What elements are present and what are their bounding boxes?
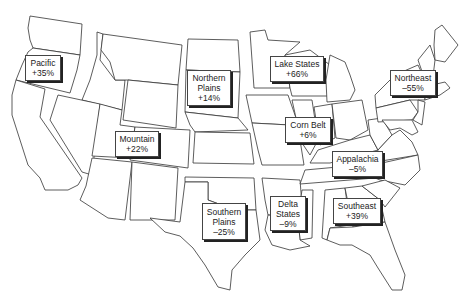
region-value: –25% xyxy=(213,227,235,237)
region-name: Mountain xyxy=(120,134,155,144)
region-value: +66% xyxy=(286,69,308,79)
region-value: +6% xyxy=(299,130,316,140)
region-name: Plains xyxy=(212,217,235,227)
region-label-northern-plains: NorthernPlains+14% xyxy=(187,70,231,106)
region-name: Lake States xyxy=(275,59,320,69)
region-name: States xyxy=(276,209,300,219)
state-new-mexico xyxy=(130,162,178,220)
us-regions-map xyxy=(0,0,475,301)
region-label-appalachia: Appalachia–5% xyxy=(332,151,383,177)
region-name: Northern xyxy=(192,73,225,83)
region-value: +22% xyxy=(126,144,148,154)
region-name: Corn Belt xyxy=(290,120,325,130)
region-name: Delta xyxy=(278,199,298,209)
region-name: Southern xyxy=(207,207,242,217)
state-maine xyxy=(434,25,458,62)
region-value: –9% xyxy=(279,219,296,229)
region-label-corn-belt: Corn Belt+6% xyxy=(285,117,331,143)
region-label-southeast: Southeast+39% xyxy=(333,198,381,224)
region-value: +35% xyxy=(32,68,54,78)
region-value: –55% xyxy=(402,83,424,93)
region-label-northeast: Northeast–55% xyxy=(390,70,436,96)
region-name: Pacific xyxy=(30,58,55,68)
region-name: Southeast xyxy=(338,201,376,211)
region-value: +39% xyxy=(346,211,368,221)
region-name: Appalachia xyxy=(336,154,378,164)
region-name: Northeast xyxy=(395,73,432,83)
state-florida xyxy=(327,222,405,290)
region-label-pacific: Pacific+35% xyxy=(25,55,61,81)
region-value: +14% xyxy=(198,93,220,103)
region-label-delta-states: DeltaStates–9% xyxy=(270,196,306,231)
state-ohio xyxy=(332,100,368,140)
state-wyoming xyxy=(123,80,178,128)
state-michigan xyxy=(326,55,355,102)
region-label-mountain: Mountain+22% xyxy=(115,131,159,157)
region-value: –5% xyxy=(349,164,366,174)
state-north-dakota xyxy=(186,39,240,72)
region-label-lake-states: Lake States+66% xyxy=(270,56,324,82)
state-kansas xyxy=(193,132,254,164)
region-label-southern-plains: SouthernPlains–25% xyxy=(202,203,246,240)
region-name: Plains xyxy=(197,83,220,93)
